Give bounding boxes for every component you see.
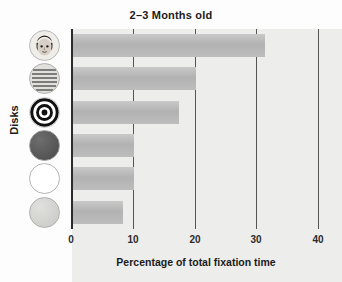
face-disk-icon (29, 30, 60, 61)
red-disk-icon (29, 130, 60, 161)
bar-bullseye (72, 101, 179, 124)
category-icon-slot (28, 96, 62, 129)
bar-row (72, 129, 320, 162)
xtick-label-20: 20 (189, 234, 200, 245)
bar-white (72, 167, 134, 190)
y-axis-line (71, 29, 73, 229)
yellow-disk-icon (29, 197, 60, 228)
category-icon-slot (28, 129, 62, 162)
face-icon-glyph (30, 31, 59, 60)
category-icon-slot (28, 162, 62, 195)
xtick-label-30: 30 (250, 234, 261, 245)
bar-row (72, 29, 320, 62)
x-axis-title: Percentage of total fixation time (60, 256, 332, 268)
xtick-label-0: 0 (68, 234, 74, 245)
bullseye-icon-glyph (30, 98, 59, 127)
category-icon-slot (28, 62, 62, 95)
bar-row (72, 162, 320, 195)
bar-series (72, 29, 320, 229)
xtick-label-40: 40 (312, 234, 323, 245)
category-icon-slot (28, 29, 62, 62)
bar-face (72, 34, 265, 57)
y-axis-title: Disks (8, 90, 20, 150)
bar-red (72, 134, 134, 157)
category-icon-column (28, 29, 62, 229)
xtick-label-10: 10 (127, 234, 138, 245)
bar-newsprint (72, 67, 196, 90)
bar-row (72, 196, 320, 229)
bullseye-disk-icon (29, 97, 60, 128)
chart-figure: 2–3 Months old (0, 0, 342, 282)
bar-row (72, 62, 320, 95)
category-icon-slot (28, 196, 62, 229)
white-disk-icon (29, 163, 60, 194)
chart-title: 2–3 Months old (0, 9, 342, 21)
bar-row (72, 96, 320, 129)
newsprint-disk-icon (29, 63, 60, 94)
bar-yellow (72, 201, 123, 224)
